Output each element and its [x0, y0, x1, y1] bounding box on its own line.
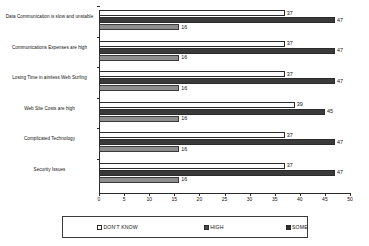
legend-label: HIGH — [210, 224, 223, 230]
legend-item[interactable]: DON'T KNOW — [97, 224, 138, 230]
bar-value-label: 47 — [335, 169, 343, 176]
bar-some — [99, 116, 179, 122]
bar-high — [99, 139, 335, 145]
bar-row: 16 — [99, 146, 355, 152]
category-label: Losing Time in aimless Web Surfing — [2, 75, 97, 81]
bar-some — [99, 55, 179, 61]
legend-item[interactable]: SOME — [286, 224, 308, 230]
bar-value-label: 37 — [285, 132, 293, 139]
bar-row: 16 — [99, 85, 355, 91]
bar-group: 374716 — [99, 41, 355, 62]
bar-don-t-know — [99, 163, 285, 169]
bar-row: 16 — [99, 24, 355, 30]
bar-row: 37 — [99, 132, 355, 138]
bar-value-label: 16 — [179, 54, 187, 61]
bar-don-t-know — [99, 132, 285, 138]
legend-label: DON'T KNOW — [104, 224, 138, 230]
bar-value-label: 16 — [179, 176, 187, 183]
axis-tick — [97, 6, 100, 7]
bar-row: 16 — [99, 55, 355, 61]
bar-row: 47 — [99, 17, 355, 23]
bar-row: 37 — [99, 41, 355, 47]
bar-value-label: 45 — [325, 108, 333, 115]
bar-row: 45 — [99, 109, 355, 115]
bar-value-label: 47 — [335, 47, 343, 54]
plot-area: Data Communication is slow and unstableC… — [0, 4, 369, 196]
x-tick-label: 0 — [92, 196, 106, 202]
bar-chart: Data Communication is slow and unstableC… — [0, 0, 369, 246]
legend-label: SOME — [292, 224, 308, 230]
bar-row: 47 — [99, 48, 355, 54]
bar-high — [99, 170, 335, 176]
category-label: Complicated Technology — [2, 136, 97, 142]
category-label: Communications Expenses are high — [2, 45, 97, 51]
bar-value-label: 47 — [335, 78, 343, 85]
bar-row: 47 — [99, 78, 355, 84]
x-tick-label: 20 — [192, 196, 206, 202]
bar-some — [99, 146, 179, 152]
x-tick-label: 10 — [142, 196, 156, 202]
bar-high — [99, 78, 335, 84]
x-axis-ticks: 05101520253035404550 — [99, 193, 355, 207]
bar-some — [99, 24, 179, 30]
bar-row: 16 — [99, 177, 355, 183]
bar-some — [99, 85, 179, 91]
bar-row: 37 — [99, 163, 355, 169]
x-tick-label: 30 — [243, 196, 257, 202]
bar-value-label: 16 — [179, 146, 187, 153]
x-tick-label: 15 — [167, 196, 181, 202]
bar-group: 394516 — [99, 102, 355, 123]
axis-tick — [97, 37, 100, 38]
x-tick-label: 25 — [218, 196, 232, 202]
bar-high — [99, 48, 335, 54]
bar-value-label: 16 — [179, 85, 187, 92]
bar-value-label: 37 — [285, 71, 293, 78]
bar-group: 374716 — [99, 71, 355, 92]
category-axis: Data Communication is slow and unstableC… — [0, 4, 99, 194]
x-tick-label: 5 — [117, 196, 131, 202]
axis-tick — [97, 67, 100, 68]
category-label: Security Issues — [2, 167, 97, 173]
bar-don-t-know — [99, 71, 285, 77]
x-tick-label: 45 — [318, 196, 332, 202]
axis-tick — [97, 98, 100, 99]
bar-row: 47 — [99, 139, 355, 145]
bar-row: 37 — [99, 71, 355, 77]
bars-area: 374716374716374716394516374716374716 — [99, 4, 355, 194]
legend-swatch-icon — [97, 225, 102, 230]
bar-don-t-know — [99, 41, 285, 47]
bar-some — [99, 177, 179, 183]
legend-swatch-icon — [204, 225, 209, 230]
x-tick-label: 50 — [343, 196, 357, 202]
bar-group: 374716 — [99, 163, 355, 184]
bar-value-label: 47 — [335, 17, 343, 24]
legend-swatch-icon — [286, 225, 291, 230]
bar-row: 39 — [99, 102, 355, 108]
legend-items: DON'T KNOWHIGHSOME — [63, 217, 307, 237]
chart-legend: DON'T KNOWHIGHSOME — [62, 216, 308, 238]
bar-value-label: 37 — [285, 10, 293, 17]
bar-high — [99, 109, 325, 115]
bar-value-label: 47 — [335, 139, 343, 146]
axis-tick — [97, 159, 100, 160]
bar-value-label: 37 — [285, 162, 293, 169]
bar-value-label: 37 — [285, 40, 293, 47]
bar-don-t-know — [99, 102, 295, 108]
bar-value-label: 39 — [295, 101, 303, 108]
bar-row: 47 — [99, 170, 355, 176]
bar-row: 16 — [99, 116, 355, 122]
bar-value-label: 16 — [179, 24, 187, 31]
category-label: Web Site Costs are high — [2, 106, 97, 112]
bar-value-label: 16 — [179, 115, 187, 122]
bar-high — [99, 17, 335, 23]
x-tick-label: 35 — [268, 196, 282, 202]
legend-item[interactable]: HIGH — [204, 224, 224, 230]
bar-don-t-know — [99, 10, 285, 16]
x-tick-label: 40 — [293, 196, 307, 202]
category-label: Data Communication is slow and unstable — [2, 14, 97, 20]
axis-tick — [97, 128, 100, 129]
bar-group: 374716 — [99, 132, 355, 153]
bar-group: 374716 — [99, 10, 355, 31]
bar-row: 37 — [99, 10, 355, 16]
